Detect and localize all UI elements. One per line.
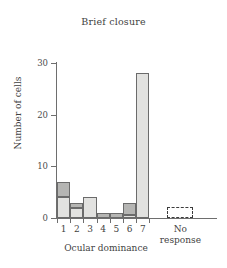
bar-stack [110,63,123,218]
x-tick [70,219,71,223]
plot-area [57,63,217,218]
x-tick [57,219,58,223]
bar-stack [57,63,70,218]
y-tick-label: 20 [22,110,48,120]
x-tick [123,219,124,223]
x-tick [83,219,84,223]
x-tick [110,219,111,223]
chart-title: Brief closure [0,16,227,27]
bar-segment-light [57,197,70,218]
bar-segment-dark [97,213,110,218]
no-response-label-line2: response [160,235,201,245]
x-tick-label: 7 [132,224,154,234]
bar-segment-light [123,215,136,218]
y-tick [51,115,56,116]
bar-segment-dark [70,203,83,208]
bar-segment-light [70,208,83,218]
x-tick [149,219,150,223]
bar-segment-light [83,197,96,218]
bar-stack [83,63,96,218]
y-tick [51,63,56,64]
bar-segment-light [136,73,149,218]
y-tick [51,218,56,219]
x-tick [136,219,137,223]
bar-segment-dark [57,182,70,198]
bar-segment-dark [123,203,136,216]
y-tick-label: 0 [22,213,48,223]
no-response-label: No response [158,224,202,245]
bar-stack [123,63,136,218]
bar-stack [97,63,110,218]
bar-stack [136,63,149,218]
bar-stack [70,63,83,218]
x-axis-title: Ocular dominance [46,243,166,253]
bar-segment-dark [110,213,123,218]
no-response-label-line1: No [174,224,187,234]
x-tick [97,219,98,223]
no-response-box [167,207,193,218]
y-tick [51,166,56,167]
y-tick-label: 30 [22,58,48,68]
y-tick-label: 10 [22,161,48,171]
